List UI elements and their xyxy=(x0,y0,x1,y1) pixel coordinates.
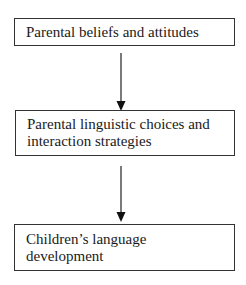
node-label: Parental beliefs and attitudes xyxy=(26,24,199,40)
node-label: Parental linguistic choices and interact… xyxy=(27,116,210,149)
arrow-1 xyxy=(117,53,126,111)
arrow-2 xyxy=(117,166,126,222)
node-parental-beliefs: Parental beliefs and attitudes xyxy=(14,18,235,46)
node-childrens-language-development: Children’s language development xyxy=(14,224,235,271)
node-parental-linguistic-choices: Parental linguistic choices and interact… xyxy=(15,110,235,156)
node-label: Children’s language development xyxy=(26,231,146,264)
